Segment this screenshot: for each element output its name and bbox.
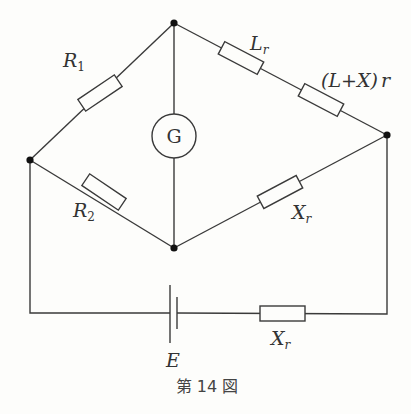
label-lxr: (L+X)r xyxy=(321,69,392,91)
wire-left-bottom xyxy=(30,160,174,248)
label-r2: R2 xyxy=(72,199,95,224)
resistor-xr-supply xyxy=(260,306,305,321)
wire-supply-right xyxy=(177,135,387,314)
node-right xyxy=(383,131,390,138)
label-xr-bridge: Xr xyxy=(290,201,313,226)
node-left xyxy=(26,156,33,163)
label-battery: E xyxy=(165,349,180,371)
label-xr-supply: Xr xyxy=(269,327,292,352)
label-galvanometer: G xyxy=(166,125,181,147)
battery xyxy=(170,285,177,343)
node-top xyxy=(170,19,177,26)
label-r1: R1 xyxy=(62,49,85,74)
wheatstone-bridge-diagram: R1 R2 Lr (L+X)r Xr G E Xr 第 14 図 xyxy=(0,0,411,414)
figure-caption: 第 14 図 xyxy=(176,377,239,396)
galvanometer: G xyxy=(152,114,196,158)
resistor-r1 xyxy=(78,75,122,111)
node-bottom xyxy=(170,244,177,251)
label-lr: Lr xyxy=(249,32,270,57)
